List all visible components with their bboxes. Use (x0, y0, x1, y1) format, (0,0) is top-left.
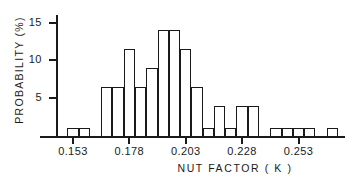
y-tick-5 (49, 97, 57, 99)
x-tick-0.178 (128, 138, 130, 144)
histogram-bar (67, 128, 78, 136)
histogram-bar (146, 68, 157, 136)
x-tick-label-0.228: 0.228 (212, 145, 272, 157)
histogram-bar (158, 30, 169, 136)
histogram-bar (79, 128, 90, 136)
x-tick-label-0.203: 0.203 (156, 145, 216, 157)
y-tick-label-5: 5 (20, 92, 42, 102)
y-tick-label-10: 10 (20, 54, 42, 64)
histogram-bar (236, 106, 247, 136)
x-tick-0.153 (72, 138, 74, 144)
histogram-bar (214, 106, 225, 136)
histogram-bar (112, 87, 123, 136)
histogram-figure: PROBABILITY (%) NUT FACTOR ( K ) 510150.… (0, 0, 351, 183)
histogram-bar (169, 30, 180, 136)
histogram-bar (101, 87, 112, 136)
x-tick-0.253 (298, 138, 300, 144)
histogram-bar (225, 128, 236, 136)
histogram-bar (304, 128, 315, 136)
x-tick-label-0.153: 0.153 (43, 145, 103, 157)
histogram-bar (135, 87, 146, 136)
histogram-bar (327, 128, 338, 136)
x-axis-title: NUT FACTOR ( K ) (130, 162, 340, 174)
y-tick-10 (49, 59, 57, 61)
y-axis-line (56, 15, 58, 137)
histogram-bar (191, 87, 202, 136)
histogram-bar (248, 106, 259, 136)
y-tick-label-15: 15 (20, 17, 42, 27)
histogram-bar (270, 128, 281, 136)
x-tick-0.203 (185, 138, 187, 144)
histogram-bar (124, 49, 135, 136)
histogram-bar (293, 128, 304, 136)
histogram-bar (282, 128, 293, 136)
y-tick-15 (49, 22, 57, 24)
x-tick-0.228 (241, 138, 243, 144)
histogram-bar (203, 128, 214, 136)
x-tick-label-0.253: 0.253 (269, 145, 329, 157)
histogram-bar (180, 49, 191, 136)
x-tick-label-0.178: 0.178 (99, 145, 159, 157)
